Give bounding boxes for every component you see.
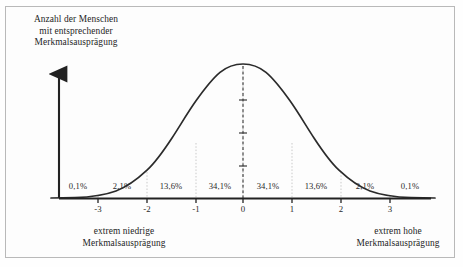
percent-label-band-5: 34,1% <box>251 181 285 191</box>
percent-label-band-7: 2,1% <box>351 181 379 191</box>
x-tick-label-3: 3 <box>380 204 400 214</box>
caption-low-line-2: Merkmalsausprägung <box>44 238 204 250</box>
x-tick-label-1: 1 <box>282 204 302 214</box>
x-tick-label-2: 2 <box>331 204 351 214</box>
percent-label-band-6: 13,6% <box>299 181 333 191</box>
figure-canvas: Anzahl der Menschen mit entsprechender M… <box>0 0 463 267</box>
x-axis <box>59 198 431 203</box>
percent-label-band-2: 2,1% <box>108 181 136 191</box>
caption-high-line-2: Merkmalsausprägung <box>338 238 458 250</box>
x-tick-label-0: 0 <box>233 204 253 214</box>
x-tick-label--3: -3 <box>88 204 108 214</box>
percent-label-band-1: 0,1% <box>64 181 92 191</box>
caption-low-end: extrem niedrige Merkmalsausprägung <box>44 226 204 249</box>
x-tick-label--1: -1 <box>186 204 206 214</box>
x-tick-label--2: -2 <box>137 204 157 214</box>
percent-label-band-3: 13,6% <box>154 181 188 191</box>
gridlines <box>98 66 390 198</box>
caption-low-line-1: extrem niedrige <box>44 226 204 238</box>
caption-high-end: extrem hohe Merkmalsausprägung <box>338 226 458 249</box>
caption-high-line-1: extrem hohe <box>338 226 458 238</box>
percent-label-band-8: 0,1% <box>396 181 424 191</box>
percent-label-band-4: 34,1% <box>203 181 237 191</box>
